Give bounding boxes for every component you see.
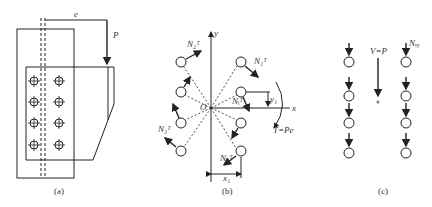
eccentricity-label: e — [74, 9, 78, 19]
caption-c: (c) — [378, 186, 388, 196]
bolt-group-diagram: e P (a) — [0, 0, 432, 207]
panel-a — [17, 18, 114, 178]
panel-c — [344, 43, 411, 158]
caption-b: (b) — [222, 186, 233, 196]
force-ni: Nᵢᵀ — [231, 96, 243, 106]
dim-x1: x₁ — [222, 173, 230, 183]
force-n1: N₁ᵀ — [253, 56, 267, 66]
force-n3: N₃ᵀ — [157, 124, 171, 134]
bolt-force-label: Nᵥᵧ — [408, 38, 420, 48]
torque-label: T=Pe — [273, 125, 294, 135]
y-axis-label: y — [213, 28, 218, 38]
caption-a: (a) — [54, 186, 64, 196]
force-n4: N₄ᵀ — [219, 153, 233, 163]
x-axis-label: x — [291, 103, 296, 113]
origin-label: O — [200, 102, 207, 112]
load-label: P — [112, 30, 119, 40]
force-n2: N₂ᵀ — [186, 39, 200, 49]
dim-y1: y₁ — [269, 94, 277, 104]
bolt-pattern — [28, 75, 65, 151]
shear-label: V=P — [370, 46, 388, 56]
